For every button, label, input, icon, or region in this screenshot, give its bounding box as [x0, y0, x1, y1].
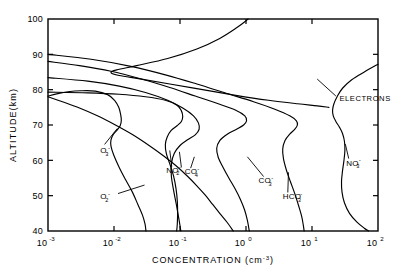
svg-text:3: 3 — [269, 181, 272, 187]
y-tick-label: 90 — [33, 50, 43, 60]
svg-text:1: 1 — [314, 235, 318, 242]
svg-text:-: - — [300, 191, 302, 197]
svg-text:3: 3 — [105, 151, 108, 157]
curve-electrons — [111, 19, 329, 107]
svg-text:10: 10 — [103, 238, 113, 248]
y-tick-label: 100 — [27, 14, 43, 24]
x-axis-title: CONCENTRATION (cm-3) — [152, 254, 274, 265]
y-axis-ticks — [48, 54, 378, 195]
svg-text:-: - — [108, 191, 110, 197]
x-tick-label: 102 — [367, 235, 384, 248]
svg-text:-1: -1 — [181, 235, 187, 242]
y-tick-label: 70 — [33, 120, 43, 130]
svg-text:-: - — [271, 175, 273, 181]
leader-line — [247, 157, 263, 177]
x-tick-label: 101 — [301, 235, 318, 248]
leader-line — [317, 79, 336, 96]
altitude-concentration-chart: O3-O2-NO2-CO4-CO3-HCO3-NO3-ELECTRONS 10-… — [0, 0, 410, 273]
series-labels: O3-O2-NO2-CO4-CO3-HCO3-NO3-ELECTRONS — [100, 79, 390, 203]
x-tick-labels: 10-310-210-1100101102 — [37, 235, 384, 248]
svg-text:-: - — [197, 166, 199, 172]
plot-border — [48, 19, 378, 231]
chart-svg: O3-O2-NO2-CO4-CO3-HCO3-NO3-ELECTRONS 10-… — [0, 0, 410, 273]
label-no3: NO3- — [346, 157, 361, 169]
svg-text:-: - — [108, 145, 110, 151]
svg-text:-3: -3 — [49, 235, 55, 242]
y-tick-labels: 405060708090100 — [27, 14, 43, 236]
svg-text:10: 10 — [301, 238, 311, 248]
svg-text:10: 10 — [169, 238, 179, 248]
svg-text:-: - — [179, 164, 181, 170]
y-tick-label: 50 — [33, 191, 43, 201]
y-axis-title: ALTITUDE(km) — [8, 88, 18, 162]
y-tick-label: 80 — [33, 85, 43, 95]
label-co3: CO3- — [259, 175, 274, 187]
label-o2: O2- — [100, 191, 110, 203]
y-tick-label: 40 — [33, 226, 43, 236]
curve-co4 — [48, 78, 199, 231]
svg-text:10: 10 — [367, 238, 377, 248]
svg-text:10: 10 — [37, 238, 47, 248]
curve-co3 — [48, 61, 249, 231]
svg-text:10: 10 — [235, 238, 245, 248]
leader-line — [118, 185, 145, 193]
svg-text:2: 2 — [176, 170, 179, 176]
label-hco3: HCO3- — [283, 191, 303, 203]
curve-no3 — [333, 64, 378, 231]
curve-o3 — [48, 91, 146, 231]
leader-line — [345, 144, 348, 158]
svg-text:3: 3 — [356, 163, 359, 169]
svg-text:CONCENTRATION (cm-3): CONCENTRATION (cm-3) — [152, 254, 274, 265]
axes-frame — [48, 19, 378, 231]
x-tick-label: 10-2 — [103, 235, 122, 248]
leader-line — [191, 157, 195, 168]
label-electrons: ELECTRONS — [339, 94, 390, 103]
curve-no2 — [48, 92, 183, 231]
label-no2: NO2- — [166, 164, 181, 176]
svg-text:4: 4 — [195, 172, 198, 178]
svg-text:2: 2 — [105, 197, 108, 203]
label-o3: O3- — [100, 145, 110, 157]
svg-text:-2: -2 — [115, 235, 121, 242]
svg-text:3: 3 — [298, 197, 301, 203]
y-tick-label: 60 — [33, 156, 43, 166]
svg-text:ELECTRONS: ELECTRONS — [339, 94, 390, 103]
x-tick-label: 10-1 — [169, 235, 188, 248]
svg-text:2: 2 — [380, 235, 384, 242]
svg-text:-: - — [359, 157, 361, 163]
label-co4: CO4- — [185, 166, 200, 178]
svg-text:ALTITUDE(km): ALTITUDE(km) — [8, 88, 18, 162]
x-tick-label: 10-3 — [37, 235, 56, 248]
svg-text:0: 0 — [248, 235, 252, 242]
x-tick-label: 100 — [235, 235, 252, 248]
series-curves — [48, 19, 378, 231]
